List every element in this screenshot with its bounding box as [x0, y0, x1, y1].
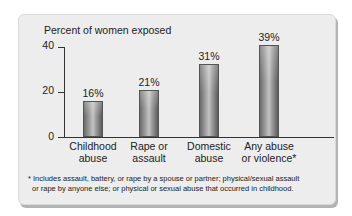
- value-label-domestic-abuse: 31%: [189, 50, 229, 62]
- category-line2: or violence*: [234, 152, 304, 164]
- bar-childhood-abuse: [83, 101, 103, 137]
- ytick-0: [58, 137, 64, 138]
- value-label-any-abuse: 39%: [249, 31, 289, 43]
- category-line1: Any abuse: [234, 140, 304, 152]
- category-label-any-abuse: Any abuse or violence*: [234, 140, 304, 164]
- value-label-childhood-abuse: 16%: [73, 87, 113, 99]
- footnote-line1: * Includes assault, battery, or rape by …: [28, 174, 328, 184]
- bar-any-abuse: [259, 45, 279, 137]
- y-axis: [64, 47, 65, 137]
- ytick-label-40: 40: [38, 39, 54, 51]
- ytick-20: [58, 92, 64, 93]
- bar-domestic-abuse: [199, 64, 219, 137]
- bar-rape-or-assault: [139, 90, 159, 137]
- ytick-label-0: 0: [38, 130, 54, 142]
- footnote-line2: or rape by anyone else; or physical or s…: [28, 184, 328, 194]
- x-axis: [64, 137, 334, 138]
- chart-title: Percent of women exposed: [44, 24, 171, 36]
- ytick-40: [58, 47, 64, 48]
- footnote: * Includes assault, battery, or rape by …: [28, 174, 328, 193]
- value-label-rape-or-assault: 21%: [129, 76, 169, 88]
- ytick-label-20: 20: [38, 84, 54, 96]
